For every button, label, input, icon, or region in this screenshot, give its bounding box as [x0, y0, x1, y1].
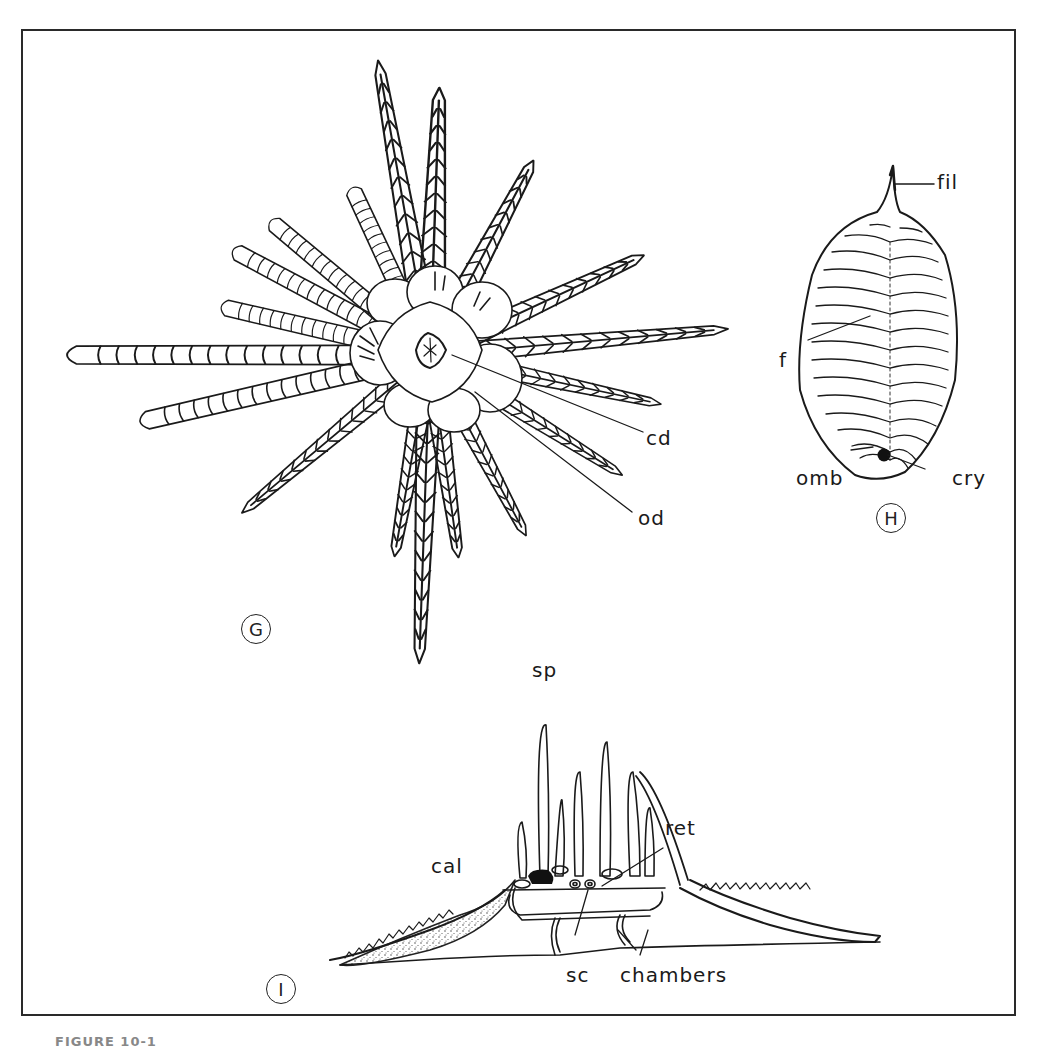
panel-label-g: G	[241, 614, 271, 644]
label-cal: cal	[431, 856, 463, 876]
label-fil: fil	[937, 172, 958, 192]
label-cd: cd	[646, 428, 672, 448]
panel-h-drawing	[799, 166, 957, 479]
label-omb: omb	[796, 468, 843, 488]
label-od: od	[638, 508, 665, 528]
label-ret: ret	[665, 818, 696, 838]
figure-caption: FIGURE 10-1	[55, 1034, 157, 1049]
label-f: f	[779, 350, 787, 370]
panel-g-drawing	[67, 58, 729, 664]
label-cry: cry	[952, 468, 986, 488]
panel-label-h: H	[876, 503, 906, 533]
panel-i-drawing	[330, 725, 880, 966]
label-chambers: chambers	[620, 965, 727, 985]
label-sc: sc	[566, 965, 589, 985]
panel-label-i: I	[266, 974, 296, 1004]
label-sp: sp	[532, 660, 557, 680]
